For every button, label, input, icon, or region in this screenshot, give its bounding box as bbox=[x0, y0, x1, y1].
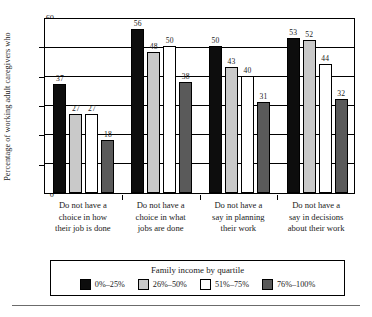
bar: 53 bbox=[287, 38, 300, 193]
bar-value-label: 31 bbox=[260, 92, 268, 101]
bar: 27 bbox=[69, 114, 82, 193]
bar: 40 bbox=[241, 76, 254, 193]
bar-value-label: 38 bbox=[182, 72, 190, 81]
bar: 44 bbox=[319, 64, 332, 193]
x-axis-category-label-line: their job is done bbox=[44, 223, 122, 235]
x-axis-category-label-line: choice in what bbox=[122, 212, 200, 224]
bar-group-bars: 50434031 bbox=[201, 19, 279, 193]
legend-item[interactable]: 26%–50% bbox=[138, 279, 187, 290]
bar-value-label: 50 bbox=[212, 36, 220, 45]
bar-value-label: 44 bbox=[321, 54, 329, 63]
bar-group: 53524432 bbox=[278, 19, 356, 193]
legend-item[interactable]: 76%–100% bbox=[262, 279, 315, 290]
bar-value-label: 52 bbox=[305, 30, 313, 39]
bar: 37 bbox=[53, 84, 66, 193]
legend-item-label: 51%–75% bbox=[215, 280, 249, 289]
bar: 18 bbox=[101, 140, 114, 193]
x-axis-category-label-line: say in planning bbox=[199, 212, 277, 224]
bar-value-label: 40 bbox=[244, 66, 252, 75]
bar: 52 bbox=[303, 40, 316, 193]
legend-item-label: 26%–50% bbox=[153, 280, 187, 289]
bar-value-label: 32 bbox=[337, 89, 345, 98]
y-axis-title-text: Percentage of working adult caregivers w… bbox=[3, 32, 12, 181]
bar-value-label: 56 bbox=[134, 19, 142, 28]
bar-group-bars: 37272718 bbox=[45, 19, 123, 193]
bar-value-label: 27 bbox=[72, 104, 80, 113]
legend-item-label: 0%–25% bbox=[95, 280, 125, 289]
bar-group-bars: 53524432 bbox=[278, 19, 356, 193]
x-axis-category-label: Do not have achoice in howtheir job is d… bbox=[44, 200, 122, 235]
bar: 38 bbox=[179, 82, 192, 193]
bar-group-bars: 56485038 bbox=[123, 19, 201, 193]
bar-group: 37272718 bbox=[45, 19, 123, 193]
chart-legend: Family income by quartile 0%–25%26%–50%5… bbox=[50, 260, 345, 296]
bar-value-label: 53 bbox=[289, 28, 297, 37]
bar: 48 bbox=[147, 52, 160, 193]
bar: 56 bbox=[131, 29, 144, 193]
x-axis-category-label-line: Do not have a bbox=[199, 200, 277, 212]
legend-title: Family income by quartile bbox=[51, 265, 344, 275]
x-axis-category-label-line: say in decisions bbox=[277, 212, 355, 224]
x-axis-category-label-line: Do not have a bbox=[277, 200, 355, 212]
bar: 32 bbox=[335, 99, 348, 193]
bar-value-label: 18 bbox=[104, 130, 112, 139]
bar-value-label: 37 bbox=[56, 74, 64, 83]
x-axis-category-label-line: choice in how bbox=[44, 212, 122, 224]
x-axis-category-label-line: Do not have a bbox=[122, 200, 200, 212]
bar-group: 50434031 bbox=[201, 19, 279, 193]
plot-area: 37272718564850385043403153524432 bbox=[44, 18, 355, 194]
x-axis-category-label-line: jobs are done bbox=[122, 223, 200, 235]
x-axis-category-label: Do not have asay in planningtheir work bbox=[199, 200, 277, 235]
legend-color-swatch bbox=[200, 279, 211, 290]
x-axis-category-label-line: Do not have a bbox=[44, 200, 122, 212]
bar: 27 bbox=[85, 114, 98, 193]
x-axis-category-label: Do not have achoice in whatjobs are done bbox=[122, 200, 200, 235]
legend-color-swatch bbox=[80, 279, 91, 290]
x-axis-category-label: Do not have asay in decisionsabout their… bbox=[277, 200, 355, 235]
bar: 50 bbox=[209, 46, 222, 193]
x-axis-category-label-line: about their work bbox=[277, 223, 355, 235]
bar-value-label: 48 bbox=[150, 42, 158, 51]
footer-divider bbox=[12, 305, 360, 306]
legend-item[interactable]: 51%–75% bbox=[200, 279, 249, 290]
bar: 50 bbox=[163, 46, 176, 193]
bar-value-label: 43 bbox=[228, 57, 236, 66]
bar: 43 bbox=[225, 67, 238, 193]
bar: 31 bbox=[257, 102, 270, 193]
legend-color-swatch bbox=[262, 279, 273, 290]
legend-items: 0%–25%26%–50%51%–75%76%–100% bbox=[51, 279, 344, 290]
legend-item-label: 76%–100% bbox=[277, 280, 315, 289]
x-axis-category-label-line: their work bbox=[199, 223, 277, 235]
bar-value-label: 27 bbox=[88, 104, 96, 113]
y-axis-title: Percentage of working adult caregivers w… bbox=[0, 18, 14, 194]
legend-item[interactable]: 0%–25% bbox=[80, 279, 125, 290]
bar-value-label: 50 bbox=[166, 36, 174, 45]
legend-color-swatch bbox=[138, 279, 149, 290]
bar-group: 56485038 bbox=[123, 19, 201, 193]
